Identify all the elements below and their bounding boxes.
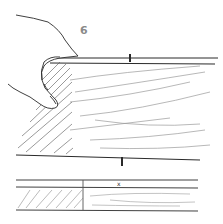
hand-outline [8,15,78,109]
figure-number: 6 [80,24,88,37]
x-mark: x [117,180,121,187]
lower-board [16,180,198,211]
wood-grain-upper [70,66,210,149]
lower-hatching [18,190,83,208]
wood-grain-lower [90,193,195,206]
woodworking-sketch: x [0,0,223,224]
